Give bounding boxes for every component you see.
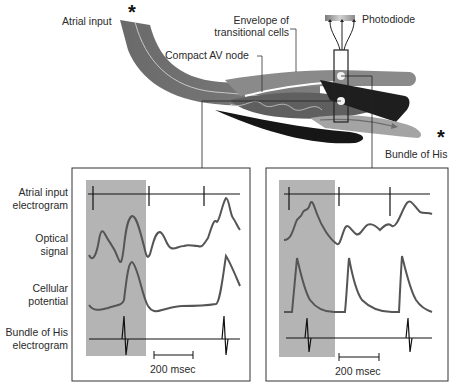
left-recording-panel: [72, 168, 250, 381]
bundle-of-his-label: Bundle of His: [385, 148, 447, 161]
right-scale-bar-label: 200 msec: [335, 365, 381, 377]
atrial-electrogram-label-1: Atrial input: [0, 186, 68, 199]
stimulus-star-atrial-icon: *: [128, 2, 136, 22]
left-scale-bar-label: 200 msec: [150, 363, 196, 375]
envelope-leader-line: [290, 29, 296, 72]
atrial-input-label: Atrial input: [62, 15, 112, 28]
atrial-electrogram-label-2: electrogram: [0, 199, 68, 212]
cellular-potential-label-1: Cellular: [0, 282, 68, 295]
left-shaded-interval: [86, 180, 146, 356]
stimulus-star-his-icon: *: [437, 127, 445, 147]
photodiode-label: Photodiode: [362, 13, 415, 26]
light-path-arrow-left: [330, 22, 340, 50]
envelope-label-line2: transitional cells: [209, 26, 289, 39]
compact-av-node-label: Compact AV node: [165, 49, 249, 62]
cellular-potential-label-2: potential: [0, 295, 68, 308]
light-path-arrow-right: [344, 22, 354, 50]
right-recording-panel: [266, 168, 448, 381]
optical-signal-label-2: signal: [0, 245, 68, 258]
his-electrogram-label-2: electrogram: [0, 339, 68, 352]
his-electrogram-label-1: Bundle of His: [0, 326, 68, 339]
right-shaded-interval: [279, 180, 335, 357]
optical-signal-label-1: Optical: [0, 232, 68, 245]
